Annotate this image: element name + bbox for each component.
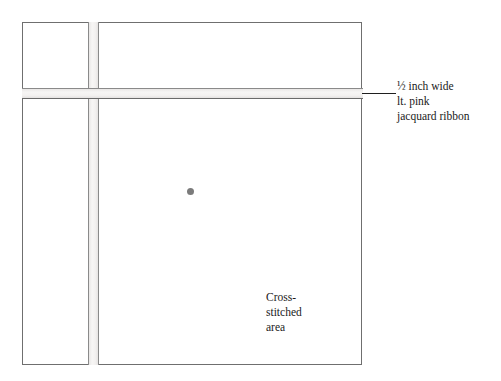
ribbon-callout-label: ½ inch wide lt. pink jacquard ribbon [397,79,470,124]
area-label-line-3: area [266,320,302,335]
callout-line-1: ½ inch wide [397,79,470,94]
diagram-canvas: Cross- stitched area ½ inch wide lt. pin… [0,0,501,381]
area-label-line-1: Cross- [266,290,302,305]
area-label-line-2: stitched [266,305,302,320]
callout-line-3: jacquard ribbon [397,109,470,124]
center-marker-dot [187,188,194,195]
callout-line-2: lt. pink [397,94,470,109]
callout-leader-line [362,93,396,94]
cross-stitched-area-label: Cross- stitched area [266,290,302,335]
ribbon-horizontal [22,88,363,99]
ribbon-vertical [88,22,99,365]
